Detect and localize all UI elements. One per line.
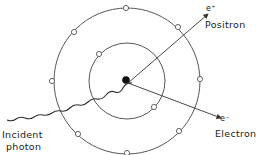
photon-label-line1: Incident — [2, 129, 43, 140]
photon-label-line2: photon — [6, 141, 41, 152]
electron-label: Electron — [215, 128, 256, 139]
incident-photon-wave — [7, 83, 132, 121]
positron-label: Positron — [205, 19, 245, 30]
electron-symbol: e⁻ — [220, 113, 230, 124]
positron-symbol: e⁺ — [206, 3, 216, 14]
electron-track — [128, 83, 221, 118]
positron-track — [128, 14, 208, 83]
